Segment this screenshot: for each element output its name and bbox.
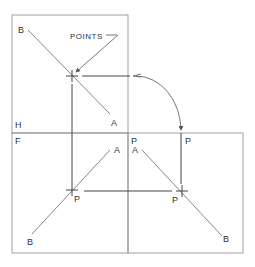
label-front-p: P [74, 194, 80, 204]
label-side-p-top: P [185, 136, 191, 146]
label-top-b: B [18, 25, 24, 35]
label-view-f: F [15, 136, 21, 146]
front-line-ab [32, 150, 110, 234]
label-front-a: A [114, 145, 120, 155]
label-top-a: A [111, 118, 117, 128]
label-front-b: B [27, 237, 33, 247]
label-side-b: B [223, 234, 229, 244]
arc-start-arrow-icon [133, 74, 141, 77]
label-side-a: A [132, 145, 138, 155]
transfer-arc [136, 76, 181, 130]
top-line-ab [28, 30, 110, 114]
label-view-h: H [15, 120, 22, 130]
label-points: POINTS [70, 32, 103, 41]
label-side-p: P [172, 195, 178, 205]
orthographic-projection-diagram: B POINTS A H F A P B P A P P B [0, 0, 255, 267]
